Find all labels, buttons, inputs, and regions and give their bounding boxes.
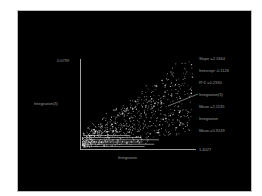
annotation-intercept: Intercept -0.1126 bbox=[199, 68, 229, 73]
chart-panel: 0.0799 Integration(3) 1.4027 Integration… bbox=[17, 10, 252, 192]
scatter-plot bbox=[18, 11, 253, 193]
annotation-r2: R^2 =0.2330 bbox=[199, 80, 222, 85]
annotation-mean-y: Mean =2.1135 bbox=[199, 104, 224, 109]
annotation-slope: Slope =2.1664 bbox=[199, 56, 225, 61]
annotation-series-x: Integration bbox=[199, 116, 218, 121]
annotation-series-y: Integration(3) bbox=[199, 92, 223, 97]
annotation-mean-x: Mean =0.9249 bbox=[199, 128, 225, 133]
